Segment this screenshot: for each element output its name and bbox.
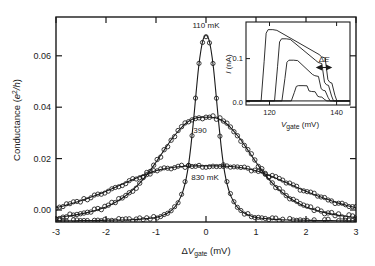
inset-y-axis-title: I (nA) [224,54,233,74]
figure-svg: 0.00 0.02 0.04 0.06 -3 -2 -1 0 1 2 3 Con… [0,0,375,266]
y-tick-label-2: 0.04 [33,102,51,112]
inset-x-title-unit: (mV) [300,120,320,129]
x-tick-label-4: 1 [253,227,258,237]
x-axis-title-unit: (mV) [207,245,230,256]
y-axis-title-h: /h [11,82,22,91]
svg-text:ΔE: ΔE [319,55,330,64]
inset-x-tick-0: 120 [263,108,276,117]
y-axis-title-main: Conductance ( [11,98,22,161]
inset-y-tick-0: 0.0 [233,98,243,107]
x-tick-label-6: 3 [353,227,358,237]
figure-root: 0.00 0.02 0.04 0.06 -3 -2 -1 0 1 2 3 Con… [0,0,375,266]
y-tick-label-0: 0.00 [33,205,51,215]
x-tick-label-5: 2 [303,227,308,237]
delta-e-e: E [324,55,330,64]
x-tick-label-2: -1 [152,227,160,237]
label-830mK: 830 mK [191,173,219,182]
y-tick-label-3: 0.06 [33,51,51,61]
label-390mK: 390 [193,126,207,135]
y-tick-label-1: 0.02 [33,154,51,164]
x-axis-title-sub: gate [194,250,207,258]
x-tick-label-1: -2 [102,227,110,237]
y-axis-title-close: ) [11,79,22,82]
x-tick-label-3: 0 [203,227,208,237]
svg-text:I (nA): I (nA) [224,54,233,74]
label-110mK: 110 mK [193,21,221,30]
inset-y-tick-1: 0.1 [233,54,243,63]
inset-x-tick-1: 140 [330,108,343,117]
delta-e-annotation: ΔE [317,55,331,70]
x-tick-label-0: -3 [52,227,60,237]
inset-y-title-unit: (nA) [224,54,233,72]
inset-x-title-sub: gate [286,123,299,131]
